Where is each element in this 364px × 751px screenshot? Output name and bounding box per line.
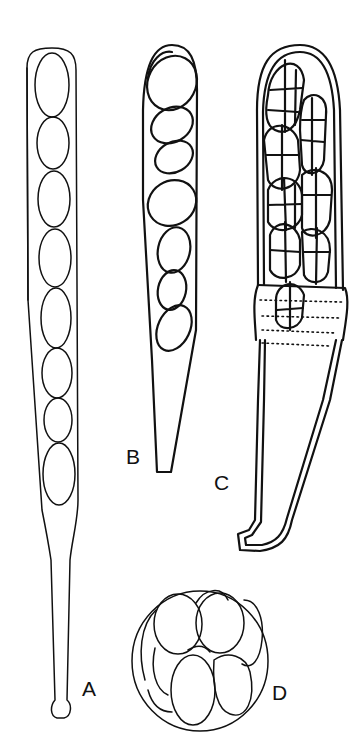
ascus-c [238, 45, 347, 551]
muriform-spores [264, 60, 332, 330]
label-b: B [126, 446, 140, 467]
ascus-b [138, 45, 207, 472]
label-d: D [272, 682, 287, 703]
label-a: A [82, 678, 96, 699]
ascus-d-cross-section [132, 591, 268, 731]
figure-drawing [0, 0, 364, 751]
label-c: C [214, 472, 229, 493]
ascus-a [27, 48, 78, 718]
